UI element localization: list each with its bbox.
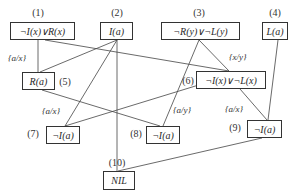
substitution-label-1: {a/x} [8,53,26,63]
node-label-1: (1) [32,7,44,18]
node-label-3: (3) [193,7,205,18]
clause-node-7: ¬I(a) [46,126,80,144]
edge-6-9 [240,89,267,120]
node-label-4: (4) [269,7,281,18]
edge-4-9 [268,40,278,120]
clause-node-8: ¬I(a) [146,126,180,144]
edge-1-6 [45,40,229,71]
substitution-label-2: {x/y} [229,52,247,62]
substitution-label-3: {a/x} [42,106,60,116]
clause-node-6: ¬I(x)∨¬L(x) [196,71,266,89]
node-label-7: (7) [27,128,39,139]
edge-9-10 [118,138,262,171]
substitution-label-5: {a/x} [225,104,243,114]
edge-2-7 [65,40,117,126]
node-label-8: (8) [130,128,142,139]
clause-node-10: NIL [103,171,135,190]
clause-node-9: ¬I(a) [247,120,282,138]
node-label-5: (5) [59,76,71,87]
clause-node-5: R(a) [22,72,55,90]
clause-node-1: ¬I(x)∨R(x) [10,22,75,40]
clause-node-4: L(a) [262,22,288,40]
clause-node-3: ¬R(y)∨¬L(y) [161,22,240,40]
node-label-9: (9) [229,122,241,133]
node-label-6: (6) [182,75,194,86]
node-label-2: (2) [111,7,123,18]
edge-2-5 [40,40,117,72]
clause-node-2: I(a) [100,22,133,40]
edge-6-7 [65,80,215,126]
node-label-10: (10) [109,157,126,168]
substitution-label-4: {a/y} [173,105,191,115]
